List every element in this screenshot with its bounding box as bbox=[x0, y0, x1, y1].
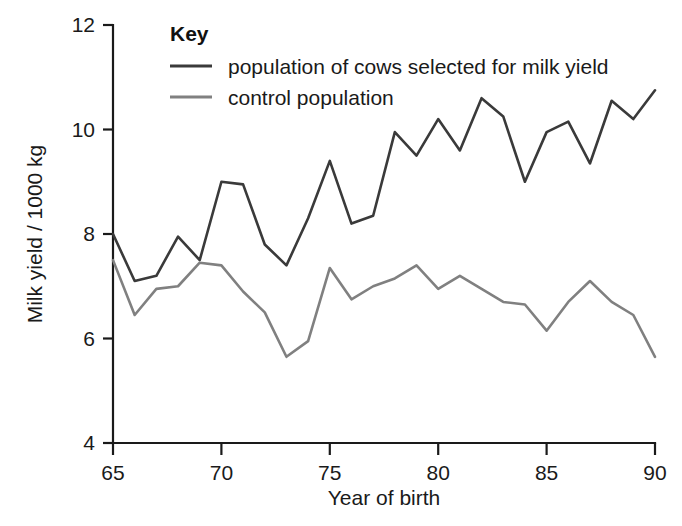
y-axis-title: Milk yield / 1000 kg bbox=[23, 145, 46, 324]
series-line-2 bbox=[113, 260, 655, 357]
legend-entries: population of cows selected for milk yie… bbox=[170, 55, 609, 109]
y-axis-tick-labels: 4681012 bbox=[72, 13, 96, 454]
x-axis-tick-labels: 657075808590 bbox=[101, 461, 666, 484]
x-tick-label: 85 bbox=[535, 461, 558, 484]
chart-figure: 4681012 657075808590 Milk yield / 1000 k… bbox=[0, 0, 682, 526]
y-axis-ticks bbox=[103, 25, 113, 443]
x-tick-label: 70 bbox=[210, 461, 233, 484]
legend-label-2: control population bbox=[228, 86, 394, 109]
x-tick-label: 90 bbox=[643, 461, 666, 484]
y-tick-label: 6 bbox=[83, 327, 95, 350]
legend-label-1: population of cows selected for milk yie… bbox=[228, 55, 609, 78]
x-axis-title: Year of birth bbox=[328, 486, 440, 509]
x-tick-label: 80 bbox=[427, 461, 450, 484]
series-group bbox=[113, 90, 655, 356]
x-tick-label: 65 bbox=[101, 461, 124, 484]
y-tick-label: 8 bbox=[83, 222, 95, 245]
x-tick-label: 75 bbox=[318, 461, 341, 484]
series-line-1 bbox=[113, 90, 655, 281]
x-axis-ticks bbox=[113, 443, 655, 455]
legend-title: Key bbox=[170, 22, 209, 45]
y-tick-label: 12 bbox=[72, 13, 95, 36]
y-tick-label: 4 bbox=[83, 431, 95, 454]
y-tick-label: 10 bbox=[72, 118, 95, 141]
line-chart-svg: 4681012 657075808590 Milk yield / 1000 k… bbox=[0, 0, 682, 526]
legend: Key population of cows selected for milk… bbox=[170, 22, 609, 109]
